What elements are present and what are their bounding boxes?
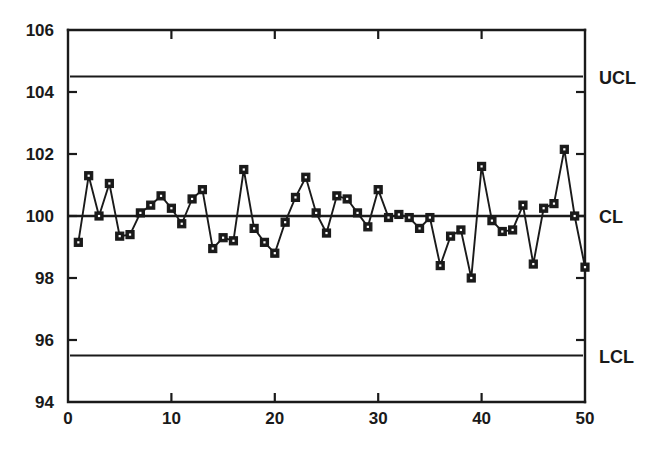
y-axis-tick-label: 106 [26, 21, 54, 40]
data-point-marker-center [418, 227, 420, 229]
x-axis-tick-label: 30 [369, 409, 388, 428]
y-axis-tick-label: 96 [35, 331, 54, 350]
data-point-marker-center [584, 266, 586, 268]
limit-label-lcl: LCL [599, 347, 634, 367]
data-point-marker-center [222, 237, 224, 239]
data-point-marker-center [367, 226, 369, 228]
data-point-marker-center [481, 165, 483, 167]
data-point-marker-center [98, 215, 100, 217]
data-point-marker-center [449, 235, 451, 237]
y-axis-tick-label: 98 [35, 269, 54, 288]
data-point-marker-center [491, 220, 493, 222]
data-point-marker-center [77, 241, 79, 243]
data-point-marker-center [574, 215, 576, 217]
series-line [78, 149, 585, 278]
data-point-marker-center [553, 203, 555, 205]
data-point-marker-center [356, 212, 358, 214]
data-point-marker-center [387, 216, 389, 218]
limit-label-cl: CL [599, 207, 623, 227]
data-point-marker-center [563, 148, 565, 150]
data-point-marker-center [88, 175, 90, 177]
data-point-marker-center [439, 265, 441, 267]
data-point-marker-center [501, 230, 503, 232]
y-axis-tick-label: 100 [26, 207, 54, 226]
y-axis-tick-label: 94 [35, 393, 54, 412]
data-point-marker-center [201, 189, 203, 191]
data-point-marker-center [512, 229, 514, 231]
data-point-marker-center [232, 240, 234, 242]
data-point-marker-center [543, 207, 545, 209]
data-point-marker-center [460, 229, 462, 231]
x-axis-tick-label: 40 [472, 409, 491, 428]
data-point-marker-center [108, 182, 110, 184]
data-point-marker-center [346, 198, 348, 200]
control-chart-canvas: 94969810010210410601020304050UCLCLLCL [0, 0, 669, 455]
x-axis-tick-label: 10 [162, 409, 181, 428]
data-point-marker-center [315, 212, 317, 214]
limit-label-ucl: UCL [599, 68, 636, 88]
data-point-marker-center [284, 221, 286, 223]
y-axis-tick-label: 102 [26, 145, 54, 164]
data-point-marker-center [532, 263, 534, 265]
data-point-marker-center [398, 213, 400, 215]
data-point-marker-center [181, 223, 183, 225]
data-point-marker-center [170, 207, 172, 209]
data-point-marker-center [274, 252, 276, 254]
data-point-marker-center [150, 204, 152, 206]
data-point-marker-center [325, 232, 327, 234]
data-point-marker-center [139, 212, 141, 214]
data-point-marker-center [336, 195, 338, 197]
control-chart: 94969810010210410601020304050UCLCLLCL [0, 0, 669, 455]
x-axis-tick-label: 50 [576, 409, 595, 428]
data-point-marker-center [160, 195, 162, 197]
data-point-marker-center [253, 227, 255, 229]
data-point-marker-center [470, 277, 472, 279]
x-axis-tick-label: 20 [265, 409, 284, 428]
x-axis-tick-label: 0 [63, 409, 72, 428]
y-axis-tick-label: 104 [26, 83, 55, 102]
data-point-marker-center [408, 216, 410, 218]
data-point-marker-center [243, 168, 245, 170]
data-point-marker-center [263, 241, 265, 243]
data-point-marker-center [429, 216, 431, 218]
data-point-marker-center [294, 196, 296, 198]
data-point-marker-center [129, 234, 131, 236]
data-point-marker-center [119, 235, 121, 237]
data-point-marker-center [212, 247, 214, 249]
data-point-marker-center [522, 204, 524, 206]
data-point-marker-center [191, 198, 193, 200]
data-point-marker-center [377, 189, 379, 191]
data-point-marker-center [305, 176, 307, 178]
